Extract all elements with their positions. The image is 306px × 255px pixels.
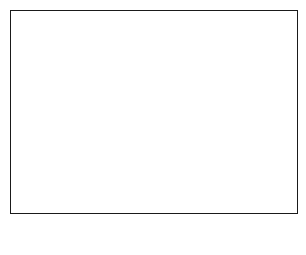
central-america-map: [0, 0, 306, 255]
